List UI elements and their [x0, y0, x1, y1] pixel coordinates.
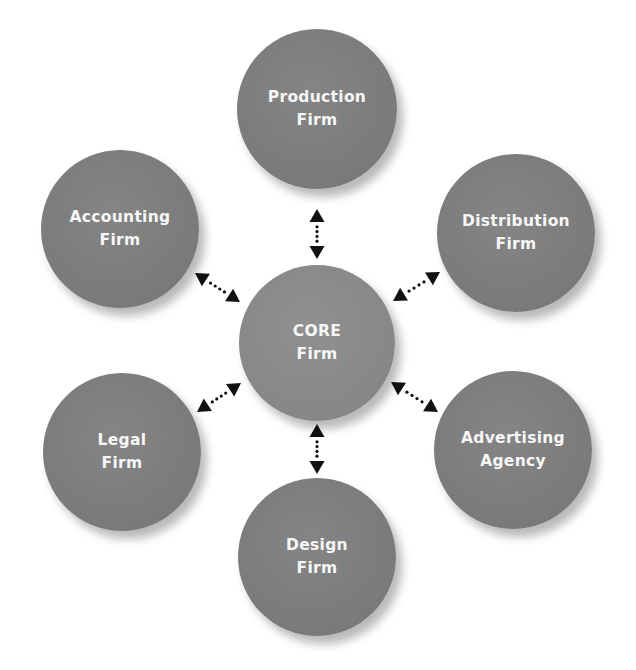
node-distribution-label-line1: Distribution [462, 210, 570, 233]
node-legal: Legal Firm [43, 373, 201, 531]
dotted-line-dot [315, 445, 318, 448]
arrowhead-icon [423, 399, 438, 412]
node-accounting-label-line1: Accounting [70, 206, 171, 229]
node-advertising-label-line1: Advertising [461, 427, 565, 450]
dotted-line-dot [422, 280, 425, 283]
arrowhead-icon [310, 209, 325, 222]
connector-core-accounting [195, 273, 240, 302]
arrowhead-icon [226, 383, 241, 396]
dotted-line-dot [315, 240, 318, 243]
node-design-label-line2: Firm [297, 557, 338, 580]
dotted-line-dot [405, 391, 408, 394]
node-accounting-label-line2: Firm [100, 229, 141, 252]
dotted-line-dot [315, 235, 318, 238]
arrowhead-icon [197, 399, 212, 412]
dotted-line-dot [211, 400, 214, 403]
connector-core-design [310, 424, 325, 474]
dotted-line-dot [315, 230, 318, 233]
node-design: Design Firm [238, 478, 396, 636]
dotted-line-dot [315, 440, 318, 443]
arrowhead-icon [391, 382, 406, 395]
node-production-label-line2: Firm [297, 109, 338, 132]
dotted-line-dot [218, 287, 221, 290]
connector-core-legal [197, 383, 241, 412]
arrowhead-icon [393, 288, 408, 301]
dotted-line-dot [209, 281, 212, 284]
dotted-line-dot [410, 394, 413, 397]
arrowhead-icon [310, 424, 325, 437]
node-core-label-line2: Firm [297, 343, 338, 366]
connector-core-production [310, 209, 325, 259]
node-advertising-label-line2: Agency [480, 450, 546, 473]
node-legal-label-line1: Legal [98, 429, 147, 452]
dotted-line-dot [223, 290, 226, 293]
node-distribution-label-line2: Firm [496, 233, 537, 256]
dotted-line-dot [412, 286, 415, 289]
dotted-line-dot [420, 400, 423, 403]
dotted-line-dot [415, 397, 418, 400]
arrowhead-icon [425, 272, 440, 285]
node-core-label-line1: CORE [293, 320, 341, 343]
dotted-line-dot [315, 455, 318, 458]
arrowhead-icon [310, 461, 325, 474]
node-advertising: Advertising Agency [434, 371, 592, 529]
dotted-line-dot [315, 225, 318, 228]
dotted-line-dot [220, 394, 223, 397]
arrowhead-icon [195, 273, 210, 286]
dotted-line-dot [215, 397, 218, 400]
dotted-line-dot [417, 283, 420, 286]
node-production: Production Firm [237, 29, 397, 189]
hub-and-spoke-diagram: Production Firm Distribution Firm Advert… [0, 0, 636, 670]
node-legal-label-line2: Firm [102, 452, 143, 475]
dotted-line-dot [315, 450, 318, 453]
connector-core-advertising [391, 382, 438, 412]
arrowhead-icon [225, 289, 240, 302]
node-production-label-line1: Production [268, 86, 366, 109]
dotted-line-dot [224, 391, 227, 394]
dotted-line-dot [214, 284, 217, 287]
connector-core-distribution [393, 272, 440, 301]
node-accounting: Accounting Firm [41, 150, 199, 308]
dotted-line-dot [407, 290, 410, 293]
node-distribution: Distribution Firm [437, 154, 595, 312]
node-core-firm: CORE Firm [239, 265, 395, 421]
arrowhead-icon [310, 246, 325, 259]
node-design-label-line1: Design [286, 534, 348, 557]
